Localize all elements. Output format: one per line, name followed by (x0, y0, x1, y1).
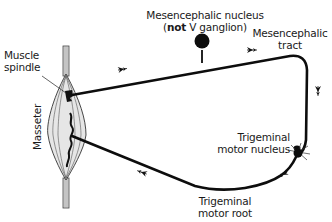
muscle-spindle-label-line1: Muscle (4, 49, 40, 61)
mesencephalic-tract-label-line1: Mesencephalic (250, 27, 330, 39)
arrow-tract-down (315, 86, 321, 96)
trigeminal-motor-nucleus-label-line2: motor nucleus (205, 143, 290, 155)
masseter-label: Masseter (31, 104, 43, 150)
trigeminal-motor-root-label-line2: motor root (185, 207, 265, 219)
arrow-afferent-1 (118, 66, 128, 73)
muscle-spindle-label: Muscle spindle (4, 49, 40, 73)
trigeminal-motor-root-label-line1: Trigeminal (185, 195, 265, 207)
mesencephalic-tract-label-line2: tract (250, 39, 330, 51)
not-emphasis: not (167, 21, 186, 33)
trigeminal-motor-nucleus-cell (288, 143, 310, 160)
mesencephalic-nucleus-label-line1: Mesencephalic nucleus (140, 9, 270, 21)
trigeminal-motor-root-label: Trigeminal motor root (185, 195, 265, 219)
trigeminal-motor-nucleus-label: Trigeminal motor nucleus (205, 131, 290, 155)
trigeminal-motor-nucleus-label-line1: Trigeminal (205, 131, 290, 143)
masseter-muscle (48, 46, 86, 208)
mesencephalic-nucleus-cell (195, 34, 210, 49)
mesencephalic-tract-label: Mesencephalic tract (250, 27, 330, 51)
v-ganglion-text: V ganglion) (186, 21, 247, 33)
muscle-spindle-label-line2: spindle (4, 61, 40, 73)
arrow-efferent-2 (136, 168, 147, 177)
